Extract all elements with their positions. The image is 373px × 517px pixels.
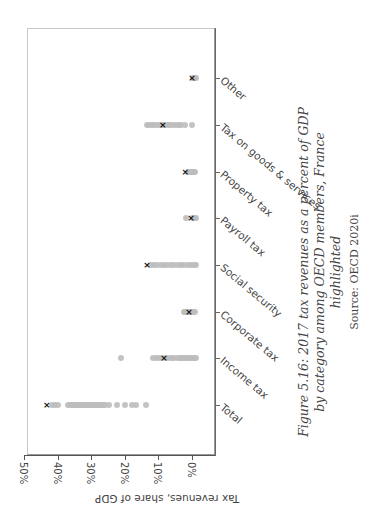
value-tick [125, 455, 126, 460]
caption-title: Figure 5.16: 2017 tax revenues as a perc… [296, 102, 344, 442]
value-tick [58, 455, 59, 460]
value-tick [24, 455, 25, 460]
category-label: Other [218, 74, 249, 102]
france-marker: × [43, 401, 51, 409]
value-tick-label: 20% [119, 462, 130, 484]
caption-source: Source: OECD 2020i [348, 102, 361, 442]
category-tick [215, 405, 220, 406]
oecd-member-point [189, 122, 195, 128]
oecd-member-point [193, 262, 199, 268]
france-marker: × [185, 308, 193, 316]
category-tick [215, 125, 220, 126]
value-tick [192, 455, 193, 460]
category-tick [215, 172, 220, 173]
france-marker: × [143, 261, 151, 269]
oecd-member-point [182, 122, 188, 128]
value-tick [158, 455, 159, 460]
oecd-member-point [133, 402, 139, 408]
value-tick-label: 10% [152, 462, 163, 484]
oecd-member-point [114, 402, 120, 408]
oecd-member-point [192, 169, 198, 175]
france-marker: × [181, 168, 189, 176]
oecd-member-point [106, 402, 112, 408]
france-marker: × [159, 121, 167, 129]
value-tick-label: 40% [52, 462, 63, 484]
category-tick [215, 358, 220, 359]
value-tick-label: 30% [85, 462, 96, 484]
category-label: Payroll tax [218, 214, 268, 259]
oecd-member-point [143, 402, 149, 408]
plot-frame [27, 28, 215, 455]
value-axis-line [24, 455, 215, 456]
france-marker: × [188, 74, 196, 82]
category-axis-line [215, 28, 216, 456]
chart-figure: 50%40%30%20%10%0% Tax revenues, share of… [0, 0, 373, 517]
category-tick [215, 265, 220, 266]
france-marker: × [160, 354, 168, 362]
france-marker: × [187, 214, 195, 222]
figure-caption: Figure 5.16: 2017 tax revenues as a perc… [296, 102, 361, 442]
category-label: Total [218, 401, 245, 426]
value-axis-title: Tax revenues, share of GDP [95, 493, 239, 505]
category-label: Property tax [218, 168, 275, 219]
category-tick [215, 78, 220, 79]
category-tick [215, 218, 220, 219]
value-tick [91, 455, 92, 460]
category-label: Income tax [218, 354, 271, 401]
value-tick-label: 0% [186, 462, 197, 478]
category-tick [215, 312, 220, 313]
value-tick-label: 50% [18, 462, 29, 484]
